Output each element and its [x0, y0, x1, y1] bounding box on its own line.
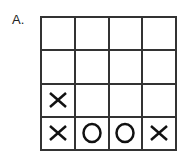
grid-cell-r4c3	[109, 117, 143, 150]
grid-cell-r3c4	[142, 84, 176, 117]
grid-cell-r1c1	[41, 17, 75, 50]
grid-cell-r1c4	[142, 17, 176, 50]
grid-cell-r4c1	[41, 117, 75, 150]
grid-cell-r1c2	[75, 17, 109, 50]
grid-cell-r2c2	[75, 50, 109, 83]
o-mark-icon	[113, 121, 137, 145]
grid-cell-r2c4	[142, 50, 176, 83]
x-mark-icon	[46, 121, 70, 145]
grid-cell-r4c2	[75, 117, 109, 150]
tic-tac-toe-grid	[40, 16, 177, 151]
grid-cell-r3c3	[109, 84, 143, 117]
x-mark-icon	[147, 121, 171, 145]
x-mark-icon	[46, 88, 70, 112]
grid-cell-r1c3	[109, 17, 143, 50]
grid-cell-r2c1	[41, 50, 75, 83]
grid-cell-r4c4	[142, 117, 176, 150]
option-label: A.	[12, 12, 24, 27]
grid-cell-r3c1	[41, 84, 75, 117]
o-mark-icon	[80, 121, 104, 145]
grid-cell-r2c3	[109, 50, 143, 83]
grid-cell-r3c2	[75, 84, 109, 117]
